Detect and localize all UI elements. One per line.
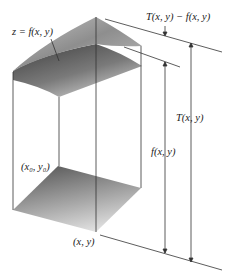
label-corner-point: (x₀, y₀) [21,161,50,173]
label-f: f(x, y) [151,146,176,158]
arrowhead-icon [163,249,167,253]
label-point: (x, y) [73,236,95,248]
base-region [13,166,141,232]
base-reference-line [100,235,222,270]
surface-underside [13,44,142,97]
arrowhead-icon [163,62,167,66]
label-surface: z = f(x, y) [11,26,53,38]
volume-diagram: z = f(x, y) T(x, y) − f(x, y) T(x, y) f(… [0,0,230,277]
label-difference: T(x, y) − f(x, y) [146,11,211,23]
label-T: T(x, y) [176,112,204,124]
